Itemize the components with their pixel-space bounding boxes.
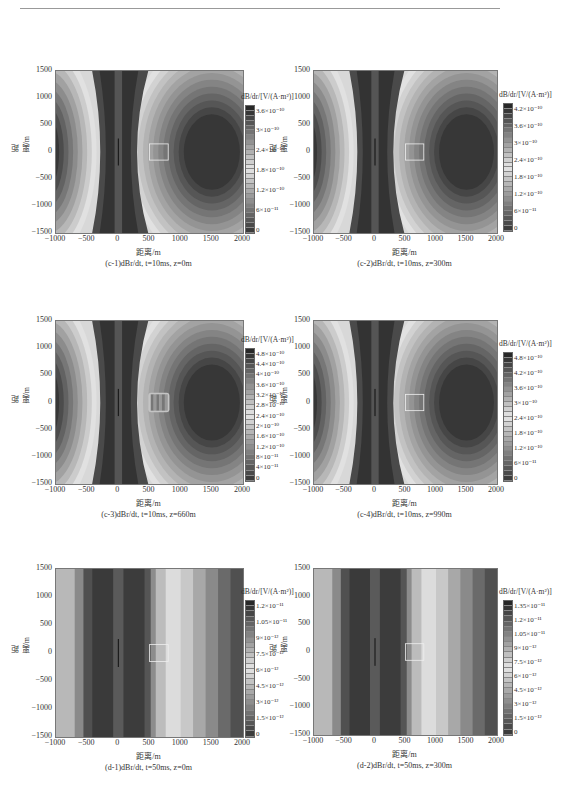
colorbar [503,600,513,736]
colorbar [503,352,513,482]
x-tick-label: 1000 [165,739,195,747]
header-rule [20,8,500,9]
x-tick-label: 1000 [420,737,450,745]
x-tick-label: 0 [102,739,132,747]
y-tick-label: −1000 [280,702,310,710]
colorbar-tick-label: 4.5×10⁻¹² [514,687,542,694]
y-tick-label: 1000 [280,93,310,101]
x-tick-label: 500 [390,235,420,243]
figure-caption: (c-2)dBr/dt, t=10ms, z=300m [295,259,515,268]
x-tick-label: 1000 [420,486,450,494]
colorbar-tick-label: 2.4×10⁻¹⁰ [514,415,542,422]
x-tick-label: 500 [134,739,164,747]
x-tick-label: 2000 [227,486,257,494]
y-tick-label: −1000 [22,452,52,460]
x-tick-label: 1500 [196,486,226,494]
colorbar-tick-label: 4.4×10⁻¹⁰ [256,361,284,368]
contour-plot [313,568,498,736]
colorbar-tick-label: 3×10⁻¹² [514,701,536,708]
colorbar-tick-label: 2.4×10⁻¹⁰ [514,157,542,164]
colorbar-tick-label: 1.35×10⁻¹¹ [514,603,545,610]
x-tick-label: −1000 [298,235,328,243]
contour-plot [313,320,498,485]
x-tick-label: 500 [134,235,164,243]
colorbar-tick-label: 4×10⁻¹¹ [256,464,278,471]
x-tick-label: −1000 [298,737,328,745]
colorbar-tick-label: 1.2×10⁻¹¹ [256,603,284,610]
y-tick-label: 1500 [22,66,52,74]
x-axis-label: 距离/m [365,748,445,759]
colorbar-tick-label: 6×10⁻¹¹ [514,460,536,467]
y-tick-label: −1000 [22,201,52,209]
colorbar-tick-label: 4.8×10⁻¹⁰ [256,351,284,358]
contour-plot [55,320,244,485]
x-tick-label: 500 [390,737,420,745]
colorbar-tick-label: 1.8×10⁻¹⁰ [256,167,284,174]
colorbar-tick-label: 9×10⁻¹² [514,645,536,652]
x-tick-label: −500 [329,486,359,494]
x-tick-label: 2000 [227,235,257,243]
contour-plot [313,70,498,234]
colorbar-tick-label: 1.6×10⁻¹⁰ [256,433,284,440]
y-tick-label: 1000 [22,592,52,600]
colorbar-title: dB/dr/[V/(A·m²)] [499,90,552,99]
x-tick-label: 2000 [481,235,511,243]
y-tick-label: 500 [22,620,52,628]
x-tick-label: 0 [102,235,132,243]
y-tick-label: 1000 [280,592,310,600]
y-tick-label: 1500 [280,66,310,74]
y-tick-label: −1000 [280,201,310,209]
colorbar-tick-label: 6×10⁻¹² [256,667,278,674]
x-tick-label: 1500 [451,737,481,745]
y-tick-label: 1000 [22,343,52,351]
y-tick-label: −1000 [280,452,310,460]
y-tick-label: 500 [280,370,310,378]
colorbar-tick-label: 0 [514,729,518,736]
figure-caption: (d-2)dBr/dt, t=50ms, z=300m [295,761,515,770]
colorbar-title: dB/dr/[V/(A·m²)] [499,587,552,596]
colorbar [245,600,255,738]
x-tick-label: 500 [134,486,164,494]
y-tick-label: 1500 [280,564,310,572]
x-tick-label: −1000 [40,739,70,747]
colorbar-tick-label: 1.8×10⁻¹⁰ [514,174,542,181]
y-tick-label: 1500 [22,316,52,324]
x-tick-label: 0 [359,486,389,494]
colorbar-tick-label: 2×10⁻¹⁰ [256,423,279,430]
colorbar-tick-label: 1.2×10⁻¹⁰ [256,187,284,194]
colorbar-tick-label: 1.2×10⁻¹¹ [514,617,542,624]
colorbar-tick-label: 6×10⁻¹¹ [514,208,536,215]
x-tick-label: 1500 [196,739,226,747]
x-axis-label: 距离/m [365,246,445,257]
colorbar-tick-label: 3.6×10⁻¹⁰ [514,385,542,392]
colorbar-tick-label: 3.6×10⁻¹⁰ [256,108,284,115]
colorbar-tick-label: 1.2×10⁻¹⁰ [514,445,542,452]
y-tick-label: 500 [280,619,310,627]
colorbar-tick-label: 2.4×10⁻¹⁰ [256,413,284,420]
y-tick-label: 500 [22,370,52,378]
colorbar-tick-label: 4×10⁻¹⁰ [256,371,279,378]
colorbar-tick-label: 4.8×10⁻¹⁰ [514,355,542,362]
colorbar-tick-label: 8×10⁻¹¹ [256,454,278,461]
colorbar-tick-label: 3×10⁻¹⁰ [256,127,279,134]
colorbar-tick-label: 1.2×10⁻¹⁰ [514,191,542,198]
colorbar-tick-label: 3×10⁻¹⁰ [514,400,537,407]
x-tick-label: 1500 [451,235,481,243]
contour-plot [55,568,244,738]
colorbar [245,105,255,234]
y-tick-label: −500 [280,174,310,182]
colorbar-tick-label: 4.5×10⁻¹² [256,683,284,690]
y-tick-label: 1500 [280,316,310,324]
colorbar-tick-label: 1.8×10⁻¹⁰ [514,430,542,437]
y-axis-label: 距离/m [268,136,290,152]
y-tick-label: −500 [22,174,52,182]
colorbar [245,348,255,482]
x-tick-label: 0 [359,235,389,243]
colorbar-tick-label: 0 [514,475,518,482]
y-axis-label: 距离/m [268,636,290,652]
colorbar-tick-label: 3.6×10⁻¹⁰ [514,123,542,130]
colorbar-tick-label: 0 [256,227,260,234]
colorbar-tick-label: 3×10⁻¹⁰ [514,140,537,147]
y-tick-label: 500 [280,120,310,128]
figure-caption: (c-1)dBr/dt, t=10ms, z=0m [39,259,259,268]
